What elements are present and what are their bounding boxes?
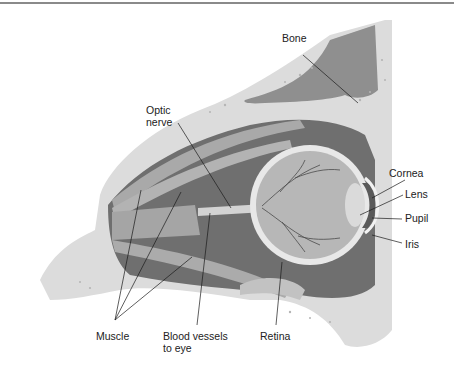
label-iris: Iris xyxy=(405,238,419,250)
label-bone: Bone xyxy=(282,32,307,44)
label-muscle: Muscle xyxy=(96,330,129,342)
label-optic-nerve-line1: Optic xyxy=(146,104,171,116)
label-retina: Retina xyxy=(260,330,290,342)
label-cornea: Cornea xyxy=(389,167,423,179)
label-blood-vessels-line2: to eye xyxy=(163,342,192,354)
label-pupil: Pupil xyxy=(405,212,428,224)
lens xyxy=(345,183,365,227)
label-blood-vessels-line1: Blood vessels xyxy=(163,330,228,342)
label-optic-nerve-line2: nerve xyxy=(146,116,172,128)
label-lens: Lens xyxy=(405,188,428,200)
